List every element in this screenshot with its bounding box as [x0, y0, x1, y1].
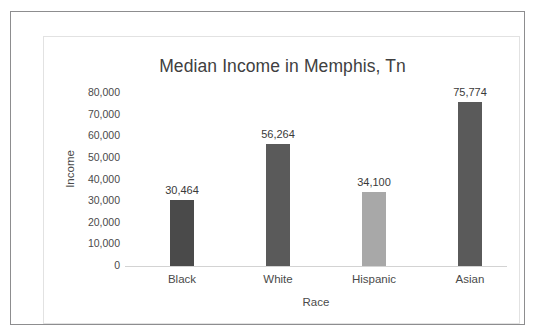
category-label-hispanic: Hispanic [326, 273, 422, 285]
chart-container[interactable]: Median Income in Memphis, Tn Income 80,0… [43, 36, 520, 324]
bar-value-label: 30,464 [134, 184, 230, 196]
bar-group-black[interactable]: 30,464 Black [134, 37, 230, 266]
bar-value-label: 56,264 [230, 128, 326, 140]
category-label-black: Black [134, 273, 230, 285]
bar-hispanic[interactable] [362, 192, 386, 266]
bar-white[interactable] [266, 144, 290, 266]
screenshot-root: Median Income in Memphis, Tn Income 80,0… [0, 0, 535, 336]
bar-group-asian[interactable]: 75,774 Asian [422, 37, 518, 266]
plot-area: Income 80,000 70,000 60,000 50,000 40,00… [44, 37, 521, 325]
x-axis-title: Race [125, 296, 507, 308]
bar-asian[interactable] [458, 102, 482, 266]
bars-layer: 30,464 Black 56,264 White 34,100 Hispani… [44, 37, 521, 325]
bar-black[interactable] [170, 200, 194, 266]
bar-value-label: 75,774 [422, 86, 518, 98]
category-label-white: White [230, 273, 326, 285]
bar-value-label: 34,100 [326, 176, 422, 188]
category-label-asian: Asian [422, 273, 518, 285]
bar-group-hispanic[interactable]: 34,100 Hispanic [326, 37, 422, 266]
bar-group-white[interactable]: 56,264 White [230, 37, 326, 266]
outer-frame: Median Income in Memphis, Tn Income 80,0… [10, 11, 525, 325]
